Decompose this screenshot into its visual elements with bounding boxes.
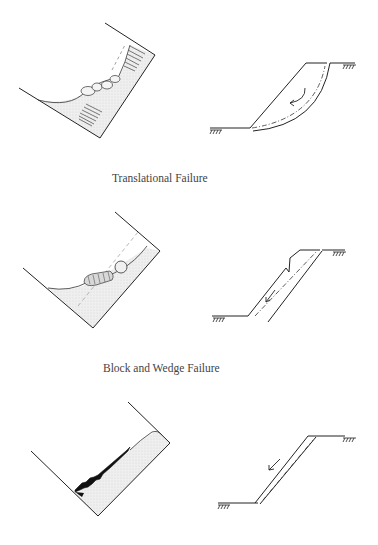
block-wedge-failure-block-sketch bbox=[31, 402, 170, 516]
slope-failure-figure bbox=[0, 0, 378, 545]
caption-translational-failure: Translational Failure bbox=[112, 172, 208, 184]
block-wedge-failure-section-sketch bbox=[218, 436, 356, 509]
rotational-failure-block-sketch bbox=[19, 23, 155, 138]
rotational-failure-section-sketch bbox=[210, 63, 356, 134]
caption-block-wedge-failure: Block and Wedge Failure bbox=[103, 362, 220, 374]
translational-failure-section-sketch bbox=[212, 250, 346, 322]
translational-failure-block-sketch bbox=[23, 212, 160, 328]
